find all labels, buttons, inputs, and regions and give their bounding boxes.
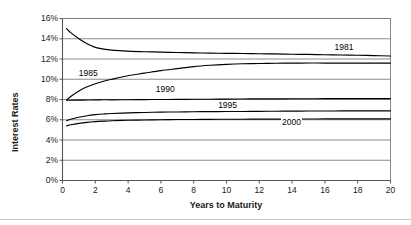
- series-label-1985: 1985: [78, 68, 99, 78]
- series-label-1995: 1995: [217, 100, 238, 110]
- series-label-1981: 1981: [334, 42, 355, 52]
- series-label-2000: 2000: [281, 117, 302, 127]
- plot-area: [0, 0, 411, 225]
- series-label-1990: 1990: [155, 84, 176, 94]
- yield-curve-chart: Interest Rates Years to Maturity 0%2%4%6…: [0, 0, 411, 225]
- footer-divider: [0, 219, 411, 220]
- gridlines: [63, 19, 391, 161]
